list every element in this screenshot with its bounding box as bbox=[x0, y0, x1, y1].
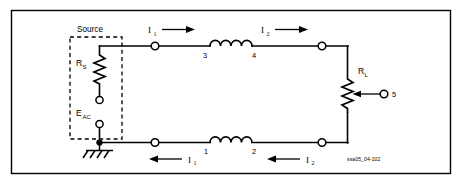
load-resistor-label-sub: L bbox=[365, 72, 369, 78]
bottom-conductor bbox=[97, 139, 348, 147]
source-voltage-label: E bbox=[76, 108, 82, 118]
source-label: Source bbox=[77, 25, 103, 34]
current-top-left-arrowhead bbox=[186, 26, 195, 33]
current-bottom-left-symbol: I bbox=[188, 155, 191, 165]
inductor-top: 3 4 bbox=[203, 40, 256, 60]
source-terminal-lower bbox=[96, 120, 103, 127]
current-top-left-sub: 1 bbox=[154, 31, 157, 37]
current-top-right-sub: 2 bbox=[267, 31, 270, 37]
source-resistor-label: R bbox=[76, 58, 82, 68]
wiper-terminal-5 bbox=[380, 90, 388, 98]
circuit-diagram-svg: Source R S E AC bbox=[0, 0, 462, 184]
source-label-text: Source bbox=[77, 25, 103, 34]
figure-id-caption: ssa05_04-102 bbox=[347, 156, 381, 162]
current-bottom-right-arrowhead bbox=[267, 156, 276, 163]
inductor-bottom: 1 2 bbox=[204, 137, 256, 156]
top-left-terminal bbox=[151, 42, 159, 50]
wiper-arm bbox=[353, 91, 381, 97]
inductor-bottom-terminal-1: 1 bbox=[204, 147, 208, 156]
load-resistor-label: R bbox=[358, 66, 364, 76]
current-top-right: I 2 bbox=[261, 25, 308, 37]
load-potentiometer: R L 5 bbox=[342, 66, 396, 113]
bottom-left-terminal bbox=[151, 139, 159, 147]
current-top-left-symbol: I bbox=[148, 25, 151, 35]
wiper-terminal-5-label: 5 bbox=[392, 90, 396, 99]
inductor-top-terminal-3: 3 bbox=[203, 51, 207, 60]
current-bottom-right: I 2 bbox=[267, 155, 315, 167]
source-resistor-label-sub: S bbox=[83, 64, 87, 70]
source-ac-voltage: E AC bbox=[76, 108, 103, 138]
current-bottom-left-sub: 1 bbox=[194, 160, 197, 166]
inductor-bottom-terminal-2: 2 bbox=[252, 147, 256, 156]
top-conductor bbox=[100, 42, 349, 50]
current-bottom-right-symbol: I bbox=[306, 155, 309, 165]
top-right-terminal bbox=[318, 42, 326, 50]
source-resistor: R S bbox=[76, 46, 105, 104]
bottom-right-terminal bbox=[318, 139, 326, 147]
current-bottom-left-arrowhead bbox=[149, 156, 158, 163]
source-terminal-upper bbox=[96, 96, 103, 103]
inductor-top-terminal-4: 4 bbox=[252, 51, 256, 60]
current-top-right-symbol: I bbox=[261, 25, 264, 35]
current-bottom-left: I 1 bbox=[149, 155, 197, 167]
current-top-left: I 1 bbox=[148, 25, 195, 37]
source-voltage-label-sub: AC bbox=[83, 114, 92, 120]
current-top-right-arrowhead bbox=[299, 26, 308, 33]
circuit-figure: Source R S E AC bbox=[0, 0, 462, 184]
current-bottom-right-sub: 2 bbox=[312, 160, 315, 166]
